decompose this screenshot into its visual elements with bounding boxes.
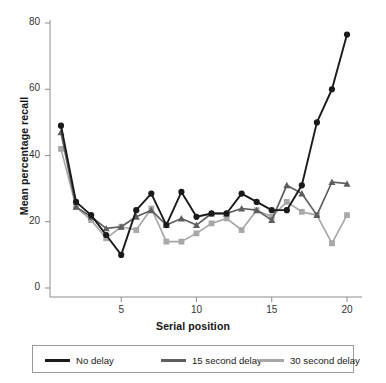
data-point-circle xyxy=(223,210,229,216)
data-point-circle xyxy=(118,252,124,258)
x-axis-tick-label: 5 xyxy=(109,304,133,315)
x-axis-title: Serial position xyxy=(0,320,386,332)
data-point-circle xyxy=(163,222,169,228)
data-point-circle xyxy=(329,86,335,92)
y-axis-tick-label: 0 xyxy=(16,281,40,292)
data-point-circle xyxy=(269,207,275,213)
data-point-square xyxy=(163,239,169,245)
series-line xyxy=(61,35,347,255)
y-axis-tick-label: 40 xyxy=(16,149,40,160)
legend-label: No delay xyxy=(76,355,114,366)
data-point-triangle xyxy=(283,182,290,188)
legend-label: 15 second delay xyxy=(192,355,262,366)
data-point-square xyxy=(299,209,305,215)
data-point-circle xyxy=(148,190,154,196)
data-point-circle xyxy=(133,207,139,213)
data-point-circle xyxy=(254,199,260,205)
legend-label: 30 second delay xyxy=(290,355,360,366)
chart-legend: No delay15 second delay30 second delay xyxy=(32,345,354,373)
data-point-circle xyxy=(178,189,184,195)
x-axis-tick-label: 20 xyxy=(335,304,359,315)
legend-line-swatch xyxy=(161,359,186,362)
data-point-square xyxy=(329,240,335,246)
data-point-square xyxy=(209,221,215,227)
data-point-square xyxy=(179,239,185,245)
data-point-square xyxy=(133,227,139,233)
data-point-triangle xyxy=(178,215,185,221)
data-point-circle xyxy=(193,214,199,220)
data-point-circle xyxy=(73,199,79,205)
data-point-circle xyxy=(239,190,245,196)
data-point-circle xyxy=(284,207,290,213)
serial-position-chart: Mean percentage recall Serial position 0… xyxy=(0,0,386,383)
data-point-square xyxy=(58,146,64,152)
data-point-circle xyxy=(299,182,305,188)
y-axis-tick-label: 80 xyxy=(16,16,40,27)
data-point-circle xyxy=(103,232,109,238)
legend-item-2: 30 second delay xyxy=(259,346,360,374)
data-point-circle xyxy=(58,123,64,129)
legend-line-swatch xyxy=(259,359,284,362)
x-axis-tick-label: 10 xyxy=(184,304,208,315)
data-point-circle xyxy=(208,210,214,216)
data-point-circle xyxy=(344,31,350,37)
y-axis-tick-label: 60 xyxy=(16,82,40,93)
y-axis-tick-label: 20 xyxy=(16,215,40,226)
series-30-second-delay xyxy=(58,146,350,246)
data-point-circle xyxy=(314,119,320,125)
data-point-square xyxy=(344,212,350,218)
legend-line-swatch xyxy=(45,359,70,362)
legend-item-0: No delay xyxy=(45,346,114,374)
data-point-square xyxy=(284,199,290,205)
x-axis-tick-label: 15 xyxy=(260,304,284,315)
legend-item-1: 15 second delay xyxy=(161,346,262,374)
data-point-circle xyxy=(88,212,94,218)
data-point-square xyxy=(194,230,200,236)
data-point-square xyxy=(239,227,245,233)
